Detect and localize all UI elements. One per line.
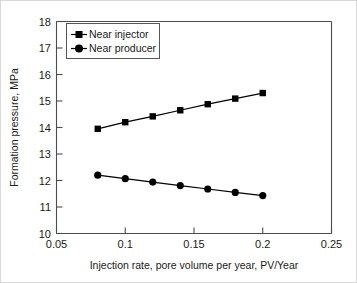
data-point-square [177,107,183,113]
y-tick-marks [57,22,63,234]
data-point-circle [122,175,129,182]
legend-marker-circle-icon [75,45,83,53]
x-tick-label-4: 0.25 [321,238,342,250]
y-tick-label-7: 17 [39,42,51,54]
y-tick-label-5: 15 [39,95,51,107]
line-chart: 18 17 16 15 14 13 12 11 10 0.05 0.1 0.15… [1,1,357,283]
legend-marker-square-icon [76,31,83,38]
data-point-circle [232,189,239,196]
y-tick-label-8: 18 [39,16,51,28]
chart-figure: 18 17 16 15 14 13 12 11 10 0.05 0.1 0.15… [0,0,357,283]
legend-label-1: Near producer [89,42,157,54]
data-point-circle [259,192,266,199]
y-tick-label-3: 13 [39,148,51,160]
x-tick-marks [57,228,332,234]
series-layer [94,90,266,199]
data-point-square [95,126,101,132]
data-point-square [232,95,238,101]
legend-label-0: Near injector [89,28,149,40]
y-tick-labels: 18 17 16 15 14 13 12 11 10 [39,16,51,240]
y-tick-label-1: 11 [40,201,51,213]
data-point-circle [94,172,101,179]
x-tick-label-2: 0.15 [183,238,204,250]
data-point-circle [204,185,211,192]
y-tick-label-2: 12 [39,175,51,187]
data-point-square [150,113,156,119]
x-axis-title: Injection rate, pore volume per year, PV… [90,259,299,271]
y-tick-label-4: 14 [39,122,51,134]
data-point-circle [149,178,156,185]
x-tick-label-1: 0.1 [118,238,133,250]
x-tick-labels: 0.05 0.1 0.15 0.2 0.25 [46,238,342,250]
data-point-square [260,90,266,96]
series-near-injector [95,90,266,132]
x-tick-label-0: 0.05 [46,238,67,250]
data-point-square [122,119,128,125]
y-tick-label-6: 16 [39,69,51,81]
y-axis-title: Formation pressure, MPa [8,68,20,187]
data-point-circle [177,182,184,189]
chart-legend: Near injector Near producer [67,24,160,59]
data-point-square [205,101,211,107]
series-near-producer [94,172,266,200]
x-tick-label-3: 0.2 [255,238,270,250]
